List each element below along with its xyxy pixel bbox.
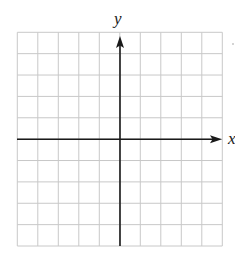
stray-dot bbox=[232, 43, 233, 44]
coordinate-plane: y x bbox=[0, 0, 235, 253]
x-axis-label: x bbox=[227, 129, 235, 148]
y-axis-label: y bbox=[112, 9, 122, 28]
